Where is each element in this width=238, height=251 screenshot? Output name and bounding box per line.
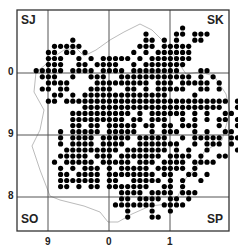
y-tick-label: 8 bbox=[8, 190, 14, 201]
y-tick-label: 0 bbox=[8, 66, 14, 77]
record-dots bbox=[34, 25, 238, 219]
x-tick-label: 1 bbox=[167, 236, 173, 247]
square-label-so: SO bbox=[21, 212, 38, 226]
y-tick-label: 9 bbox=[8, 128, 14, 139]
x-tick-label: 0 bbox=[106, 236, 112, 247]
square-label-sp: SP bbox=[207, 212, 223, 226]
county-boundary bbox=[32, 24, 230, 222]
x-tick-label: 9 bbox=[45, 236, 51, 247]
square-label-sj: SJ bbox=[21, 13, 36, 27]
square-label-sk: SK bbox=[207, 13, 224, 27]
